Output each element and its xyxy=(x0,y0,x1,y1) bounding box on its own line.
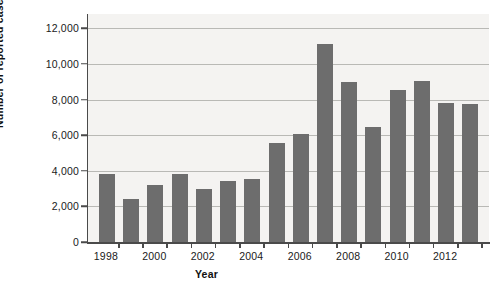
x-tick-mark xyxy=(409,242,411,248)
plot-area xyxy=(87,14,489,242)
y-tick-mark xyxy=(81,63,87,65)
x-tick-label: 2010 xyxy=(385,250,409,262)
bar xyxy=(390,90,406,242)
bar xyxy=(414,81,430,242)
bar xyxy=(147,185,163,242)
bar xyxy=(220,181,236,242)
gridline xyxy=(88,28,489,29)
y-axis-title: Number of reported cases xyxy=(0,0,5,128)
x-tick-mark xyxy=(191,242,193,248)
x-tick-mark xyxy=(215,242,217,248)
y-tick-label: 12,000 xyxy=(46,22,79,34)
x-tick-mark xyxy=(166,242,168,248)
x-tick-label: 2008 xyxy=(336,250,360,262)
x-tick-label: 2012 xyxy=(433,250,457,262)
y-tick-label: 2,000 xyxy=(52,200,79,212)
x-tick-mark xyxy=(239,242,241,248)
x-tick-mark xyxy=(118,242,120,248)
x-tick-mark xyxy=(457,242,459,248)
bar xyxy=(438,103,454,242)
x-tick-mark xyxy=(142,242,144,248)
bar-chart-figure: 02,0004,0006,0008,00010,00012,000 Number… xyxy=(0,0,498,293)
y-tick-mark xyxy=(81,134,87,136)
x-tick-label: 2000 xyxy=(142,250,166,262)
y-tick-mark xyxy=(81,99,87,101)
bar xyxy=(123,199,139,242)
x-tick-mark xyxy=(288,242,290,248)
bar xyxy=(365,127,381,242)
x-tick-label: 2002 xyxy=(191,250,215,262)
y-tick-label: 8,000 xyxy=(52,94,79,106)
x-axis-title: Year xyxy=(195,268,218,280)
y-tick-label: 6,000 xyxy=(52,129,79,141)
x-tick-mark xyxy=(481,242,483,248)
bar xyxy=(99,174,115,242)
bar xyxy=(172,174,188,242)
x-tick-mark xyxy=(312,242,314,248)
y-tick-label: 4,000 xyxy=(52,165,79,177)
bar xyxy=(244,179,260,242)
x-tick-label: 2004 xyxy=(239,250,263,262)
x-tick-mark xyxy=(433,242,435,248)
x-axis: Year 19982000200220042006200820102012 xyxy=(87,242,490,293)
gridline xyxy=(88,64,489,65)
y-tick-mark xyxy=(81,28,87,30)
x-tick-label: 2006 xyxy=(288,250,312,262)
bar xyxy=(293,134,309,242)
bar xyxy=(317,44,333,242)
bar xyxy=(269,143,285,242)
y-tick-label: 0 xyxy=(73,236,79,248)
bar xyxy=(462,104,478,242)
x-tick-mark xyxy=(385,242,387,248)
x-tick-mark xyxy=(263,242,265,248)
y-tick-mark xyxy=(81,206,87,208)
bar xyxy=(341,82,357,242)
y-tick-label: 10,000 xyxy=(46,58,79,70)
y-tick-mark xyxy=(81,170,87,172)
x-tick-label: 1998 xyxy=(94,250,118,262)
x-tick-mark xyxy=(360,242,362,248)
y-axis: 02,0004,0006,0008,00010,00012,000 xyxy=(0,0,87,293)
bar xyxy=(196,189,212,242)
x-tick-mark xyxy=(336,242,338,248)
